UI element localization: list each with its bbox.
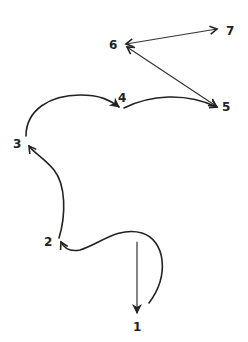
arrow-6-to-7 (126, 29, 217, 44)
node-label-5: 5 (222, 100, 230, 114)
arrow-4-to-5 (124, 97, 217, 108)
node-label-4: 4 (118, 91, 126, 105)
arrow-3-to-4 (26, 95, 119, 136)
node-label-1: 1 (133, 320, 141, 334)
path-diagram: 1 2 3 4 5 6 7 (0, 0, 248, 342)
node-label-2: 2 (44, 235, 52, 249)
arrow-2-to-3 (29, 146, 64, 238)
node-label-3: 3 (13, 137, 21, 151)
arrow-1-to-2 (61, 231, 162, 303)
node-label-6: 6 (109, 38, 117, 52)
node-label-7: 7 (226, 24, 234, 38)
